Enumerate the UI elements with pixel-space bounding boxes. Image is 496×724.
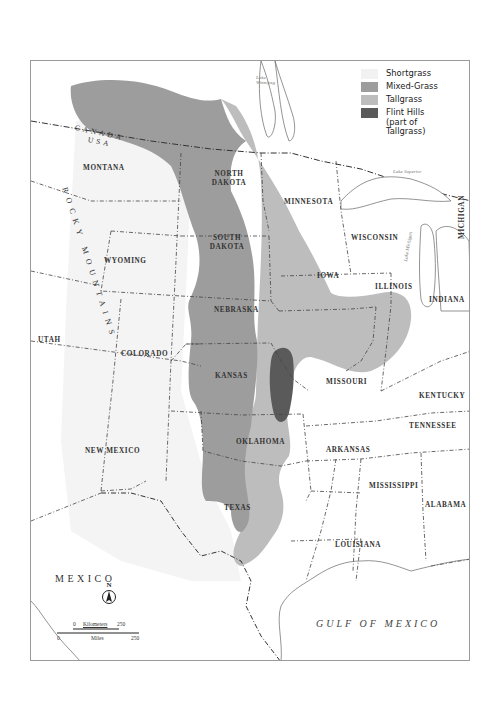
legend-item-shortgrass: Shortgrass — [361, 69, 457, 79]
map-legend: Shortgrass Mixed-Grass Tallgrass Flint H… — [361, 69, 457, 140]
flint-hills-region — [270, 348, 294, 422]
state-label-missouri: MISSOURI — [326, 379, 367, 386]
state-label-indiana: INDIANA — [429, 297, 465, 304]
north-label: N — [101, 582, 117, 589]
state-label-arkansas: ARKANSAS — [326, 447, 370, 454]
shortgrass-swatch — [361, 69, 378, 79]
state-label-alabama: ALABAMA — [425, 502, 466, 509]
state-label-illinois: ILLINOIS — [375, 284, 413, 291]
tallgrass-swatch — [361, 95, 378, 105]
state-label-louisiana: LOUISIANA — [335, 542, 381, 549]
scale-mi-max: 250 — [131, 635, 139, 641]
lake-superior-label: Lake Superior — [393, 169, 421, 174]
legend-item-flint-hills: Flint Hills (part of Tallgrass) — [361, 108, 457, 137]
map-canvas — [31, 61, 470, 661]
state-label-michigan: MICHIGAN — [459, 195, 466, 239]
scale-bar: 0 Kilometers 250 0 Miles 250 — [51, 617, 171, 657]
state-label-texas: TEXAS — [224, 505, 251, 512]
legend-item-tallgrass: Tallgrass — [361, 95, 457, 105]
north-arrow: N — [101, 582, 117, 609]
state-label-kansas: KANSAS — [215, 373, 248, 380]
legend-label: Mixed-Grass — [386, 82, 438, 92]
lake-superior-outline — [341, 177, 451, 210]
state-label-oklahoma: OKLAHOMA — [236, 439, 285, 446]
flint-hills-swatch — [361, 108, 378, 118]
legend-label: Tallgrass — [386, 95, 422, 105]
state-label-new-mexico: NEW MEXICO — [85, 448, 140, 455]
legend-item-mixed-grass: Mixed-Grass — [361, 82, 457, 92]
gulf-of-mexico-label: GULF OF MEXICO — [316, 618, 440, 629]
state-label-south-dakota: SOUTH DAKOTA — [207, 235, 247, 251]
state-label-wyoming: WYOMING — [104, 258, 147, 265]
legend-label-group: Flint Hills (part of Tallgrass) — [386, 108, 457, 137]
state-label-iowa: IOWA — [317, 273, 339, 280]
state-label-montana: MONTANA — [83, 165, 125, 172]
state-label-mississippi: MISSISSIPPI — [369, 483, 418, 490]
scale-bars-graphic — [51, 627, 171, 647]
mixed-grass-swatch — [361, 82, 378, 92]
lake-winnipeg-label: Lake Winnipeg — [256, 75, 275, 86]
legend-label: Shortgrass — [386, 69, 431, 79]
scale-mi-zero: 0 — [57, 635, 60, 641]
lake-michigan-outline — [420, 224, 436, 307]
scale-mi-label: Miles — [91, 635, 104, 641]
state-label-tennessee: TENNESSEE — [409, 423, 457, 430]
state-label-utah: UTAH — [38, 337, 61, 344]
grassland-map: Shortgrass Mixed-Grass Tallgrass Flint H… — [30, 60, 470, 661]
state-label-north-dakota: NORTH DAKOTA — [209, 171, 249, 187]
legend-sublabel: (part of Tallgrass) — [386, 118, 457, 137]
state-label-colorado: COLORADO — [121, 351, 168, 358]
state-label-nebraska: NEBRASKA — [214, 307, 259, 314]
lake-winnipeg-outline — [259, 61, 275, 137]
state-label-wisconsin: WISCONSIN — [351, 235, 398, 242]
compass-icon — [101, 589, 117, 605]
state-label-kentucky: KENTUCKY — [419, 393, 465, 400]
state-label-minnesota: MINNESOTA — [284, 199, 333, 206]
